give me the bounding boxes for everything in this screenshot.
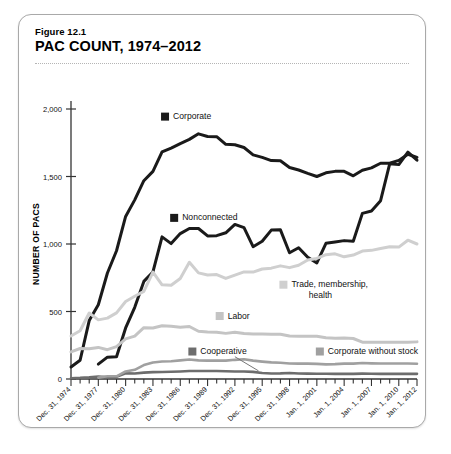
figure-number: Figure 12.1 [35, 26, 86, 37]
legend-swatch [170, 214, 178, 222]
series-label: Cooperative [200, 346, 247, 356]
figure-card: Figure 12.1 PAC COUNT, 1974–2012 05001,0… [18, 14, 426, 428]
series-label: Corporate [173, 111, 211, 121]
legend-swatch [161, 113, 169, 121]
y-axis-title: NUMBER OF PACS [31, 203, 41, 285]
legend-swatch [216, 312, 224, 320]
chart-series [71, 134, 417, 378]
y-axis-tick-label: 1,500 [43, 173, 62, 182]
title-divider [35, 63, 409, 64]
series-label: Nonconnected [182, 212, 238, 222]
series-label: Trade, membership, [291, 279, 368, 289]
y-axis-tick-label: 2,000 [43, 105, 62, 114]
page-title: PAC COUNT, 1974–2012 [35, 38, 201, 54]
y-axis-tick-label: 500 [49, 308, 62, 317]
legend-swatch [279, 281, 287, 289]
series-label: health [309, 290, 333, 300]
y-axis-tick-label: 1,000 [43, 240, 62, 249]
y-axis-tick-label: 0 [58, 375, 62, 384]
series-line [98, 152, 417, 364]
legend-swatch [188, 348, 196, 356]
series-label: Corporate without stock [328, 346, 419, 356]
legend-swatch [316, 348, 324, 356]
series-label: Labor [228, 311, 250, 321]
pac-count-line-chart: 05001,0001,5002,000NUMBER OF PACSDec. 31… [19, 73, 425, 425]
